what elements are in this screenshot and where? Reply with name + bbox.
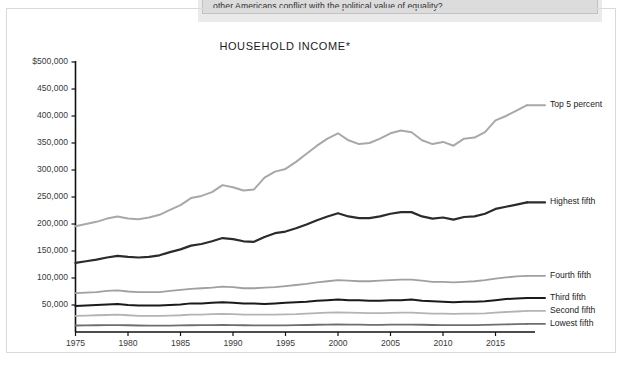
y-tick-label: $500,000	[2, 56, 68, 66]
y-tick-label: 400,000	[2, 110, 68, 120]
series-line-lowest-fifth	[76, 324, 528, 326]
series-line-third-fifth	[76, 298, 528, 306]
x-tick-label: 2005	[371, 338, 411, 348]
series-line-top-5-percent	[76, 105, 528, 226]
y-tick-label: 50,000	[2, 299, 68, 309]
x-tick-label: 1985	[161, 338, 201, 348]
chart-plot-area: $500,000450,000400,000350,000300,000250,…	[0, 0, 624, 365]
series-label-lowest-fifth: Lowest fifth	[550, 318, 593, 328]
x-tick-label: 1995	[266, 338, 306, 348]
x-tick-label: 2015	[476, 338, 516, 348]
y-tick-label: 200,000	[2, 218, 68, 228]
x-tick-label: 1990	[213, 338, 253, 348]
series-label-top-5-percent: Top 5 percent	[550, 99, 602, 109]
series-label-second-fifth: Second fifth	[550, 305, 595, 315]
x-tick-label: 1980	[108, 338, 148, 348]
x-tick-label: 2000	[318, 338, 358, 348]
series-label-third-fifth: Third fifth	[550, 292, 586, 302]
series-label-highest-fifth: Highest fifth	[550, 196, 595, 206]
series-line-second-fifth	[76, 311, 528, 316]
y-tick-label: 100,000	[2, 272, 68, 282]
x-tick-label: 2010	[423, 338, 463, 348]
y-tick-label: 150,000	[2, 245, 68, 255]
series-line-highest-fifth	[76, 202, 528, 262]
series-label-fourth-fifth: Fourth fifth	[550, 270, 591, 280]
y-tick-label: 300,000	[2, 164, 68, 174]
chart-svg	[0, 0, 624, 365]
x-tick-label: 1975	[56, 338, 96, 348]
y-tick-label: 350,000	[2, 137, 68, 147]
y-tick-label: 250,000	[2, 191, 68, 201]
series-line-fourth-fifth	[76, 276, 528, 293]
y-tick-label: 450,000	[2, 83, 68, 93]
